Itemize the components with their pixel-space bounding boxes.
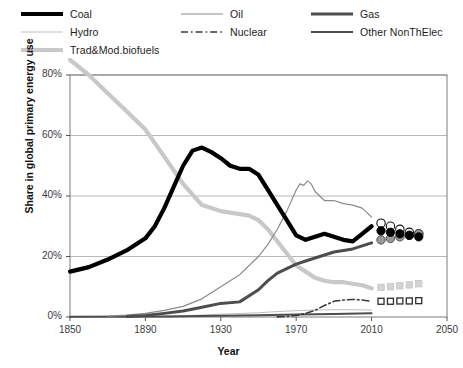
marker-nuclear-2030: [406, 298, 412, 304]
series-markers-nuclear: [378, 298, 422, 305]
x-tick-label-1850: 1850: [45, 324, 95, 335]
y-tick-label-20: 20%: [22, 250, 62, 261]
marker-biofuels-2025: [397, 283, 403, 289]
marker-coal-2035: [415, 233, 423, 241]
x-axis-title: Year: [0, 345, 457, 357]
marker-coal-2025: [396, 230, 404, 238]
x-tick-label-2050: 2050: [422, 324, 463, 335]
series-line-gas: [127, 243, 372, 317]
series-gas: [127, 243, 372, 317]
marker-oil-2015: [377, 219, 385, 227]
y-tick-label-40: 40%: [22, 189, 62, 200]
x-tick-label-1970: 1970: [271, 324, 321, 335]
marker-nuclear-2025: [397, 298, 403, 304]
series-oil: [108, 181, 372, 316]
marker-coal-2015: [377, 227, 385, 235]
x-tick-label-1890: 1890: [120, 324, 170, 335]
y-tick-label-0: 0%: [22, 310, 62, 321]
marker-coal-2030: [405, 231, 413, 239]
x-tick-label-2010: 2010: [347, 324, 397, 335]
marker-nuclear-2035: [416, 298, 422, 304]
marker-biofuels-2015: [378, 284, 384, 290]
marker-gas-2015: [377, 236, 385, 244]
marker-coal-2020: [386, 228, 394, 236]
marker-biofuels-2035: [416, 281, 422, 287]
marker-biofuels-2020: [387, 284, 393, 290]
y-tick-label-60: 60%: [22, 129, 62, 140]
marker-nuclear-2015: [378, 298, 384, 304]
series-markers-biofuels: [378, 281, 422, 291]
y-tick-label-80: 80%: [22, 68, 62, 79]
series-line-oil: [108, 181, 372, 316]
marker-biofuels-2030: [406, 282, 412, 288]
x-tick-label-1930: 1930: [196, 324, 246, 335]
marker-nuclear-2020: [387, 298, 393, 304]
